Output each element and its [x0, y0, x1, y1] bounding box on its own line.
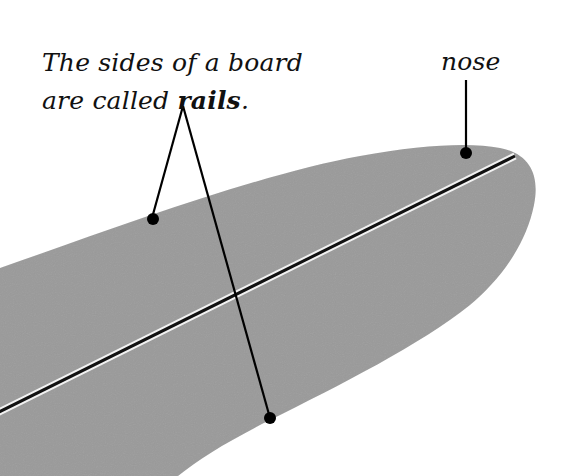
rails-label: The sides of a board are called rails.	[42, 44, 303, 120]
rails-term: rails	[177, 86, 240, 115]
rails-label-line1: The sides of a board	[42, 44, 303, 82]
nose-label: nose	[441, 43, 501, 81]
nose-dot-icon	[460, 147, 472, 159]
rails-label-line2: are called rails.	[42, 82, 303, 120]
surfboard-body	[0, 145, 536, 476]
rail-bottom-dot-icon	[264, 412, 276, 424]
rail-top-dot-icon	[147, 213, 159, 225]
